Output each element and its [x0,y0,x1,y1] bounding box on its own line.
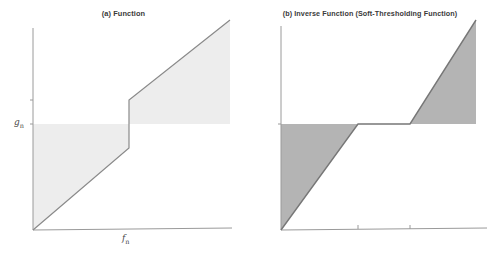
panel-inverse-function: (b) Inverse Function (Soft-Thresholding … [247,0,493,263]
panel-a-x-axis-label-sub: n [125,238,129,246]
panel-b-x-axis [281,228,487,230]
panel-a-plot [0,0,247,263]
panel-function: (a) Function gn fn [0,0,247,263]
panel-a-shaded-region-lower [33,124,129,230]
figure-container: (a) Function gn fn (b) Inverse Function … [0,0,493,263]
panel-a-x-axis [33,228,232,230]
panel-a-y-axis-label: gn [14,117,24,130]
panel-a-x-axis-label: fn [122,233,130,246]
panel-b-plot [247,0,493,263]
panel-a-shaded-region-upper [129,20,230,124]
panel-a-y-axis-label-sub: n [20,122,24,130]
